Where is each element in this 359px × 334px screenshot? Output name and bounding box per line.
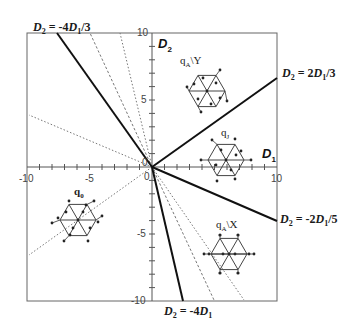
boundary-label-neg4: D2 = -4D1 — [164, 304, 212, 320]
region-label-qA-X: qA\X — [216, 218, 238, 233]
y-tick-neg5: -5 — [137, 228, 146, 239]
lattice-qA-Y — [186, 69, 229, 114]
region-label-qA-Y: qA\Y — [180, 54, 202, 69]
y-axis-name: D2 — [158, 36, 172, 54]
region-label-qJ: qJ — [221, 126, 229, 141]
boundary-label-2-3: D2 = 2D1/3 — [282, 66, 336, 82]
lattice-q0 — [51, 200, 104, 243]
boundary-label-neg4-3: D2 = -4D1/3 — [33, 20, 91, 36]
y-tick-0: 0 — [144, 171, 150, 182]
boundary-line-neg4-3 — [57, 33, 152, 167]
x-tick-0: 0 — [142, 157, 148, 168]
x-tick-10: 10 — [271, 173, 282, 184]
x-tick-neg10: -10 — [19, 173, 33, 184]
y-tick-10: 10 — [137, 27, 148, 38]
lattice-qJ — [200, 138, 253, 183]
boundary-line-neg4 — [152, 167, 183, 301]
lattice-qA-X — [203, 233, 256, 274]
y-tick-neg10: -10 — [131, 295, 145, 306]
boundary-label-neg2-5: D2 = -2D1/5 — [280, 212, 338, 228]
phase-diagram-canvas — [0, 0, 359, 334]
y-tick-5: 5 — [141, 94, 147, 105]
region-label-q0: q0 — [74, 185, 84, 200]
x-tick-neg5: -5 — [85, 173, 94, 184]
x-axis-name: D1 — [262, 146, 276, 164]
